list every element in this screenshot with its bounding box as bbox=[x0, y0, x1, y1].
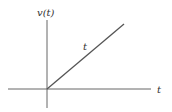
ramp-function-diagram: v(t) t t bbox=[0, 0, 172, 112]
x-axis-label: t bbox=[157, 84, 162, 95]
y-axis-label: v(t) bbox=[37, 7, 55, 18]
line-label: t bbox=[83, 41, 88, 52]
ramp-line bbox=[47, 24, 124, 89]
